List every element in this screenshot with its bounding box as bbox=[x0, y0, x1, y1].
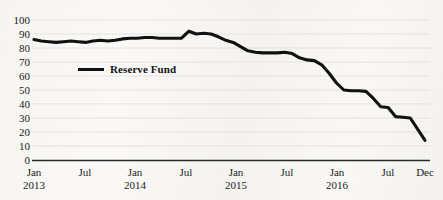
x-tick-year: 2016 bbox=[326, 179, 348, 192]
x-tick-label: Jan 2016 bbox=[326, 166, 348, 191]
x-tick-year: 2013 bbox=[23, 179, 45, 192]
x-tick-month: Dec bbox=[416, 166, 434, 178]
x-tick-label: Jan 2014 bbox=[124, 166, 146, 191]
x-tick-label: Jul bbox=[79, 166, 92, 179]
x-tick-label: Jul bbox=[382, 166, 395, 179]
x-tick-year: 2015 bbox=[225, 179, 247, 192]
x-tick-label: Dec bbox=[416, 166, 434, 179]
x-tick-label: Jan 2013 bbox=[23, 166, 45, 191]
x-tick-month: Jan bbox=[330, 166, 345, 178]
legend-line-swatch bbox=[78, 68, 104, 71]
gridlines bbox=[32, 20, 430, 146]
plot-area bbox=[0, 0, 443, 200]
x-tick-month: Jan bbox=[27, 166, 42, 178]
x-tick-label: Jul bbox=[180, 166, 193, 179]
x-tick-year: 2014 bbox=[124, 179, 146, 192]
x-tick-month: Jul bbox=[281, 166, 294, 178]
x-tick-month: Jan bbox=[128, 166, 143, 178]
chart-container: 100 90 80 70 60 50 40 30 20 10 0 Reserve bbox=[0, 0, 443, 200]
x-tick-label: Jul bbox=[281, 166, 294, 179]
x-tick-label: Jan 2015 bbox=[225, 166, 247, 191]
chart-legend: Reserve Fund bbox=[78, 63, 176, 75]
x-tick-month: Jul bbox=[79, 166, 92, 178]
x-tick-month: Jul bbox=[382, 166, 395, 178]
legend-label-reserve-fund: Reserve Fund bbox=[110, 63, 176, 75]
x-tick-month: Jul bbox=[180, 166, 193, 178]
x-tick-month: Jan bbox=[229, 166, 244, 178]
